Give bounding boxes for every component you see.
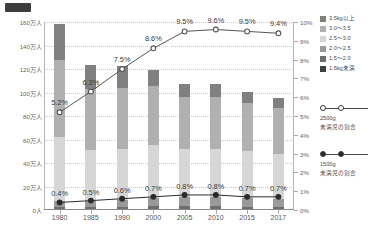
line-marker	[182, 29, 187, 34]
data-point-label: 9.6%	[207, 16, 224, 25]
x-axis-tick-label: 2015	[239, 214, 255, 221]
y-axis-left-tick-label: 160万人	[20, 18, 42, 27]
legend-line-item[interactable]: 1500g未満児の割合	[320, 150, 368, 177]
y-axis-right-tick	[294, 22, 298, 23]
y-axis-left-tick-label: 20万人	[23, 182, 42, 191]
line-path	[60, 30, 279, 113]
legend-item[interactable]: 3.5kg以上	[320, 14, 355, 24]
y-axis-right-tick	[294, 41, 298, 42]
y-axis-left-tick-label: 0人	[33, 206, 42, 215]
data-point-label: 0.6%	[114, 186, 131, 195]
legend-line-label-secondary: 未満児の割合	[320, 170, 368, 178]
y-axis-left-tick-label: 80万人	[23, 112, 42, 121]
y-axis-left-tick-label: 100万人	[20, 88, 42, 97]
legend-swatch-icon	[320, 26, 326, 32]
legend-line-rule	[322, 154, 368, 155]
y-axis-right-tick	[294, 135, 298, 136]
line-marker	[245, 29, 250, 34]
data-point-label: 0.8%	[207, 182, 224, 191]
data-point-label: 6.3%	[82, 78, 99, 87]
y-axis-left-tick-label: 140万人	[20, 41, 42, 50]
y-axis-right-tick	[294, 116, 298, 117]
data-point-label: 5.2%	[51, 98, 68, 107]
legend-item-label: 3.0～3.5	[329, 26, 351, 32]
x-axis-tick-label: 1985	[83, 214, 99, 221]
legend-line-dot	[320, 151, 326, 157]
data-point-label: 9.4%	[270, 19, 287, 28]
data-point-label: 0.7%	[270, 184, 287, 193]
y-axis-right-tick	[294, 210, 298, 211]
y-axis-right-tick-label: 1%	[300, 188, 309, 195]
y-axis-right-tick	[294, 97, 298, 98]
legend-item[interactable]: 1.5～2.0	[320, 54, 355, 64]
y-axis-right-tick	[294, 172, 298, 173]
legend-item[interactable]: 2.0～2.5	[320, 44, 355, 54]
legend-item-label: 1.5～2.0	[329, 56, 351, 62]
y-axis-right-tick	[294, 154, 298, 155]
birth-weight-chart: 0人20万人40万人60万人80万人100万人120万人140万人160万人 0…	[0, 0, 376, 236]
x-axis-tick	[247, 210, 248, 214]
x-axis-line	[44, 209, 294, 210]
y-axis-left-line	[44, 22, 45, 210]
x-axis-tick	[153, 210, 154, 214]
x-axis-tick	[185, 210, 186, 214]
x-axis-tick-label: 1990	[114, 214, 130, 221]
line-marker	[213, 27, 218, 32]
legend-item-label: 3.5kg以上	[329, 16, 355, 22]
legend-line-label-secondary: 未満児の割合	[320, 124, 368, 132]
legend-swatch-icon	[320, 36, 326, 42]
legend-swatch-icon	[320, 66, 326, 72]
y-axis-right-tick-label: 6%	[300, 94, 309, 101]
line-marker	[151, 194, 156, 199]
x-axis-tick	[216, 210, 217, 214]
legend-stack-series: 3.5kg以上3.0～3.52.5～3.02.0～2.51.5～2.01.5kg…	[320, 14, 355, 74]
line-marker	[151, 46, 156, 51]
legend-line-rule	[322, 108, 368, 109]
legend-swatch-icon	[320, 46, 326, 52]
y-axis-right-tick-label: 2%	[300, 169, 309, 176]
y-axis-left-tick-label: 60万人	[23, 135, 42, 144]
data-point-label: 0.8%	[176, 182, 193, 191]
y-axis-right-tick-label: 7%	[300, 75, 309, 82]
data-point-label: 0.4%	[51, 189, 68, 198]
legend-item-label: 2.0～2.5	[329, 46, 351, 52]
legend-swatch-icon	[320, 16, 326, 22]
line-marker	[120, 196, 125, 201]
data-point-label: 0.5%	[82, 188, 99, 197]
line-marker	[57, 110, 62, 115]
y-axis-right-tick	[294, 78, 298, 79]
legend-item[interactable]: 2.5～3.0	[320, 34, 355, 44]
x-axis-tick-label: 2005	[177, 214, 193, 221]
legend-line-item[interactable]: 2500g未満児の割合	[320, 104, 368, 131]
legend-line-marker-icon	[320, 104, 368, 114]
line-marker	[276, 194, 281, 199]
data-point-label: 9.5%	[239, 17, 256, 26]
x-axis-tick-label: 1980	[52, 214, 68, 221]
y-axis-right-tick-label: 10%	[300, 19, 312, 26]
line-marker	[276, 31, 281, 36]
legend-line-label-primary: 2500g	[320, 115, 368, 123]
legend-line-label-primary: 1500g	[320, 161, 368, 169]
legend-swatch-icon	[320, 56, 326, 62]
x-axis-tick-label: 2017	[271, 214, 287, 221]
line-marker	[88, 89, 93, 94]
y-axis-right-tick-label: 5%	[300, 113, 309, 120]
legend-item-label: 1.5kg未満	[329, 66, 355, 72]
plot-area	[44, 22, 294, 210]
data-point-label: 7.5%	[114, 55, 131, 64]
y-axis-right-tick-label: 0%	[300, 207, 309, 214]
line-marker	[88, 198, 93, 203]
y-axis-right-tick-label: 3%	[300, 150, 309, 157]
line-series-group	[44, 22, 294, 210]
line-marker	[182, 193, 187, 198]
legend-line-marker-icon	[320, 150, 368, 160]
line-marker	[213, 193, 218, 198]
line-marker	[120, 67, 125, 72]
data-point-label: 0.7%	[239, 184, 256, 193]
data-point-label: 0.7%	[145, 184, 162, 193]
legend-item[interactable]: 3.0～3.5	[320, 24, 355, 34]
y-axis-left-tick-label: 120万人	[20, 65, 42, 74]
x-axis-tick-label: 2010	[208, 214, 224, 221]
y-axis-left-tick-label: 40万人	[23, 159, 42, 168]
legend-item[interactable]: 1.5kg未満	[320, 64, 355, 74]
